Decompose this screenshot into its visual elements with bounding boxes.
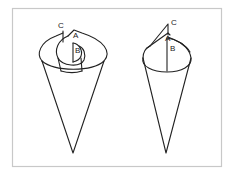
label-b-right: B: [170, 44, 175, 53]
label-c-right: C: [171, 18, 177, 27]
figure-frame: [13, 9, 222, 167]
cone-diagram: C A B C A B: [0, 0, 232, 176]
label-c-left: C: [58, 21, 64, 30]
label-a-right: A: [165, 34, 171, 43]
label-b-left: B: [75, 46, 80, 55]
label-a-left: A: [73, 31, 79, 40]
